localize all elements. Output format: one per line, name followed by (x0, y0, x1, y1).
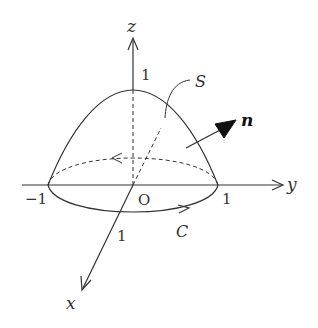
z-axis (128, 38, 138, 185)
z-axis-label: z (127, 18, 136, 35)
origin-label: O (138, 193, 150, 208)
diagram-graphics (0, 0, 318, 328)
normal-vector (186, 120, 236, 148)
y-tick-one: 1 (222, 192, 232, 207)
y-tick-neg-one: −1 (25, 192, 47, 207)
x-axis-label: x (66, 295, 76, 312)
normal-vector-arrow-icon (215, 120, 236, 138)
curve-c-front (48, 185, 218, 212)
y-axis (22, 180, 283, 190)
surface-s-label: S (195, 74, 206, 90)
curve-c-label: C (176, 224, 188, 240)
surface-s-leader (165, 80, 190, 118)
z-tick-one: 1 (141, 68, 151, 83)
normal-vector-label: n (241, 112, 253, 129)
y-axis-label: y (287, 176, 297, 193)
x-tick-one: 1 (117, 229, 127, 244)
surface-integral-diagram: z 1 S n y −1 O 1 1 C x (0, 0, 318, 328)
